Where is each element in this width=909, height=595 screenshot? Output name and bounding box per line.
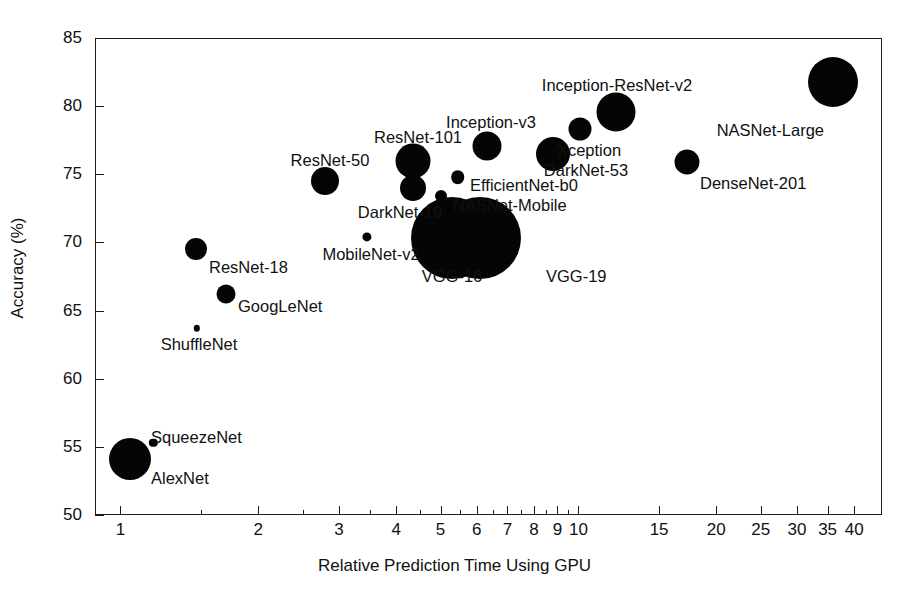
y-tick-80 [95, 106, 104, 107]
y-tick-70 [95, 242, 104, 243]
x-tick-25 [761, 506, 762, 515]
y-tick-label-55: 55 [36, 438, 82, 455]
y-tick-label-50: 50 [36, 506, 82, 523]
y-tick-55 [95, 447, 104, 448]
point-label-mobilenet-v2: MobileNet-v2 [322, 246, 419, 263]
x-tick-label-4: 4 [391, 521, 400, 538]
x-tick-minor [521, 510, 522, 515]
point-label-shufflenet: ShuffleNet [161, 336, 238, 353]
point-label-alexnet: AlexNet [151, 470, 209, 487]
bubble-googlenet [216, 285, 235, 304]
x-tick-minor [568, 510, 569, 515]
x-tick-10 [578, 506, 579, 515]
point-label-resnet-101: ResNet-101 [374, 129, 462, 146]
x-tick-label-40: 40 [845, 521, 864, 538]
point-label-xception: Xception [557, 142, 621, 159]
x-tick-6 [477, 506, 478, 515]
point-label-inception-resnet-v2: Inception-ResNet-v2 [542, 77, 692, 94]
bubble-xception [569, 118, 592, 141]
x-tick-minor [546, 510, 547, 515]
x-tick-4 [396, 506, 397, 515]
x-tick-3 [339, 506, 340, 515]
bubble-alexnet [109, 438, 151, 480]
point-label-darknet-19: DarkNet-19 [358, 204, 442, 221]
x-tick-2 [258, 506, 259, 515]
point-label-efficientnet-b0: EfficientNet-b0 [470, 177, 578, 194]
x-tick-1 [120, 506, 121, 515]
y-tick-60 [95, 379, 104, 380]
x-tick-minor [303, 510, 304, 515]
bubble-darknet-19 [400, 175, 426, 201]
x-tick-label-9: 9 [553, 521, 562, 538]
x-tick-label-35: 35 [818, 521, 837, 538]
point-label-inception-v3: Inception-v3 [446, 114, 536, 131]
x-axis-title: Relative Prediction Time Using GPU [0, 556, 909, 576]
bubble-nasnet-large [808, 57, 858, 107]
y-axis-title: Accuracy (%) [8, 188, 28, 348]
x-tick-label-6: 6 [472, 521, 481, 538]
point-label-nasnet-large: NASNet-Large [717, 122, 824, 139]
scatter-chart-figure: 5055606570758085 12345678910152025303540… [0, 0, 909, 595]
bubble-resnet-101 [395, 143, 430, 178]
x-tick-label-30: 30 [788, 521, 807, 538]
x-tick-minor [420, 510, 421, 515]
x-tick-30 [797, 506, 798, 515]
x-tick-label-3: 3 [334, 521, 343, 538]
x-tick-minor [493, 510, 494, 515]
x-tick-label-15: 15 [650, 521, 669, 538]
x-tick-label-1: 1 [116, 521, 125, 538]
x-tick-label-8: 8 [529, 521, 538, 538]
x-tick-40 [854, 506, 855, 515]
x-tick-8 [534, 506, 535, 515]
point-label-vgg-16: VGG-16 [422, 268, 483, 285]
bubble-densenet-201 [675, 150, 700, 175]
x-tick-20 [716, 506, 717, 515]
point-label-squeezenet: SqueezeNet [151, 429, 242, 446]
x-tick-minor [460, 510, 461, 515]
point-label-resnet-50: ResNet-50 [291, 152, 370, 169]
point-label-resnet-18: ResNet-18 [209, 259, 288, 276]
y-tick-label-85: 85 [36, 29, 82, 46]
x-tick-5 [441, 506, 442, 515]
y-tick-label-70: 70 [36, 233, 82, 250]
bubble-efficientnet-b0 [451, 170, 465, 184]
y-tick-75 [95, 174, 104, 175]
x-tick-minor [370, 510, 371, 515]
y-tick-65 [95, 311, 104, 312]
y-tick-label-75: 75 [36, 165, 82, 182]
x-tick-label-2: 2 [254, 521, 263, 538]
point-label-densenet-201: DenseNet-201 [700, 175, 806, 192]
point-label-nasnet-mobile: NASNet-Mobile [453, 197, 567, 214]
x-tick-15 [659, 506, 660, 515]
y-tick-85 [95, 38, 104, 39]
bubble-inception-resnet-v2 [597, 92, 636, 131]
x-tick-label-5: 5 [436, 521, 445, 538]
bubble-resnet-18 [185, 238, 207, 260]
bubble-inception-v3 [472, 131, 501, 160]
y-tick-label-65: 65 [36, 302, 82, 319]
y-tick-label-80: 80 [36, 97, 82, 114]
x-tick-label-25: 25 [751, 521, 770, 538]
bubble-resnet-50 [311, 167, 339, 195]
x-tick-7 [507, 506, 508, 515]
point-label-darknet-53: DarkNet-53 [544, 162, 628, 179]
x-tick-minor [201, 510, 202, 515]
x-tick-label-7: 7 [503, 521, 512, 538]
x-tick-35 [828, 506, 829, 515]
x-tick-label-10: 10 [569, 521, 588, 538]
x-tick-9 [557, 506, 558, 515]
y-tick-50 [95, 515, 104, 516]
point-label-googlenet: GoogLeNet [238, 298, 322, 315]
y-tick-label-60: 60 [36, 370, 82, 387]
x-tick-label-20: 20 [707, 521, 726, 538]
point-label-vgg-19: VGG-19 [546, 268, 607, 285]
